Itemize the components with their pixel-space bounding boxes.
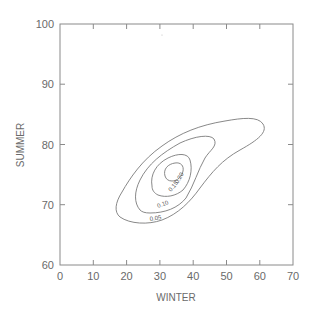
- x-tick-label: 20: [120, 270, 132, 282]
- contour-chart: 0 10 20 30 40 50 60 70 60 70 80 90 100 W…: [0, 0, 314, 317]
- y-tick-label: 90: [42, 78, 54, 90]
- y-tick-label: 80: [42, 139, 54, 151]
- x-tick-labels: 0 10 20 30 40 50 60 70: [57, 270, 299, 282]
- speck: [161, 34, 162, 35]
- y-tick-labels: 60 70 80 90 100: [36, 18, 54, 271]
- y-axis-title: SUMMER: [15, 123, 26, 167]
- x-tick-label: 50: [220, 270, 232, 282]
- x-tick-label: 40: [187, 270, 199, 282]
- x-tick-label: 30: [154, 270, 166, 282]
- contour-level-0-10: [136, 136, 216, 213]
- contour-label: 0.20: [174, 171, 185, 185]
- y-tick-label: 100: [36, 18, 54, 30]
- x-tick-label: 10: [87, 270, 99, 282]
- x-tick-label: 0: [57, 270, 63, 282]
- y-tick-label: 60: [42, 259, 54, 271]
- contour-lines: [116, 118, 264, 223]
- x-tick-label: 60: [254, 270, 266, 282]
- y-tick-label: 70: [42, 199, 54, 211]
- x-tick-label: 70: [287, 270, 299, 282]
- contour-label: 0.10: [156, 199, 170, 209]
- x-axis-title: WINTER: [156, 292, 195, 303]
